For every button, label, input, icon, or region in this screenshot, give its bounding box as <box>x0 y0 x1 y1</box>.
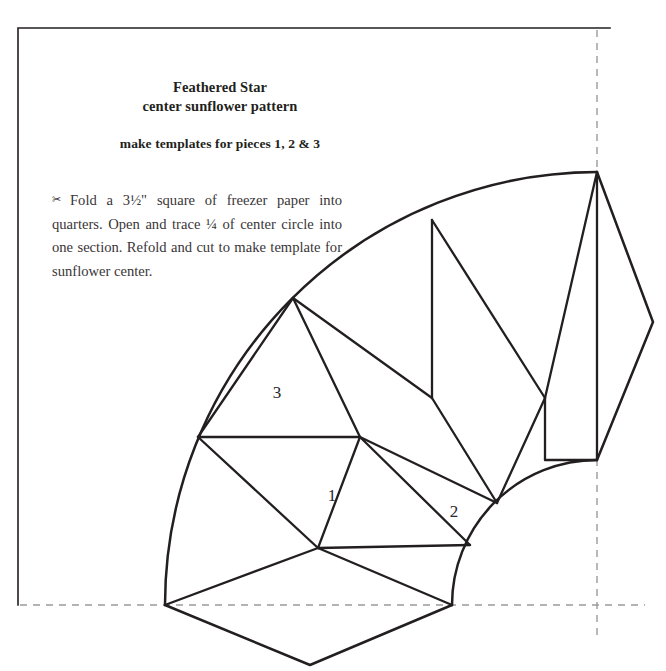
seam-center-to-left-node <box>198 437 318 548</box>
seam-upper-diagonal <box>432 220 545 398</box>
seam-center-to-innerarc-base <box>318 548 452 605</box>
scissors-glyph: ✂ <box>52 193 61 205</box>
piece-label-2: 2 <box>450 502 459 522</box>
seam-bottomleft-to-center <box>165 548 318 605</box>
bottom-star-point <box>165 605 452 665</box>
seam-piece3-right <box>293 298 360 437</box>
instruction-text: Fold a 3½" square of freezer paper into … <box>52 192 342 279</box>
instruction-paragraph: ✂ Fold a 3½" square of freezer paper int… <box>52 188 342 283</box>
seam-node-to-innerarc-b <box>360 437 470 545</box>
seam-apex-to-mid-node <box>293 298 432 398</box>
scissors-icon: ✂ <box>52 188 70 213</box>
right-star-point <box>597 172 653 460</box>
subtitle: make templates for pieces 1, 2 & 3 <box>55 136 385 152</box>
title-line-2: center sunflower pattern <box>55 97 385 116</box>
piece-label-3: 3 <box>273 383 282 403</box>
pattern-page: Feathered Star center sunflower pattern … <box>0 0 666 671</box>
seam-center-to-upper-node <box>318 437 360 548</box>
seam-top-to-upper-node <box>545 172 597 398</box>
page-title: Feathered Star center sunflower pattern <box>55 78 385 116</box>
seam-center-horizontal <box>318 545 470 548</box>
seam-innerarc-to-upper-node <box>497 398 545 503</box>
piece-label-1: 1 <box>328 486 337 506</box>
inner-arc <box>452 460 597 605</box>
seam-piece3-left <box>198 298 293 437</box>
title-line-1: Feathered Star <box>55 78 385 97</box>
